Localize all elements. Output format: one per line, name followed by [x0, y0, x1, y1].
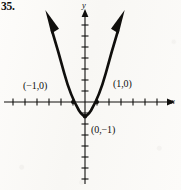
parabola-right-arrowhead-icon: [111, 10, 125, 34]
point-marker-right-intercept: [95, 100, 99, 104]
y-axis-arrowhead-icon: [82, 9, 89, 17]
left-intercept-label: (−1,0): [23, 80, 47, 91]
y-axis-label: y: [82, 1, 86, 10]
figure-container: 35.: [0, 0, 181, 190]
vertex-label: (0,−1): [91, 124, 115, 135]
coordinate-plane: [0, 0, 181, 190]
point-marker-vertex: [83, 114, 87, 118]
y-axis: [82, 9, 89, 184]
x-axis-label: x: [171, 97, 175, 106]
parabola-left-arrowhead-icon: [45, 10, 59, 34]
point-marker-left-intercept: [71, 100, 75, 104]
x-axis: [4, 99, 175, 106]
right-intercept-label: (1,0): [113, 78, 132, 89]
